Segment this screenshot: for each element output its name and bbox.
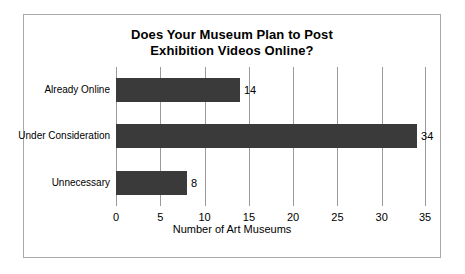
x-tick-label: 0 <box>113 210 119 224</box>
x-tick-label: 5 <box>157 210 163 224</box>
x-tick-label: 30 <box>376 210 388 224</box>
chart-title: Does Your Museum Plan to Post Exhibition… <box>24 27 440 59</box>
bar <box>116 171 187 195</box>
category-label: Unnecessary <box>52 171 110 195</box>
x-tick-label: 15 <box>243 210 255 224</box>
category-label: Under Consideration <box>18 124 110 148</box>
bar-value-label: 14 <box>240 78 256 102</box>
plot-area: Already Online 14 Under Consideration 34… <box>116 67 426 206</box>
x-tick-label: 20 <box>287 210 299 224</box>
x-tick-label: 35 <box>419 210 431 224</box>
x-tick-label: 25 <box>331 210 343 224</box>
category-label: Already Online <box>44 78 110 102</box>
x-tick-label: 10 <box>198 210 210 224</box>
x-axis-title: Number of Art Museums <box>24 223 440 235</box>
bar-value-label: 34 <box>417 124 433 148</box>
bar <box>116 124 417 148</box>
chart-title-line-1: Does Your Museum Plan to Post <box>24 27 440 43</box>
chart-frame: Does Your Museum Plan to Post Exhibition… <box>23 14 441 258</box>
chart-title-line-2: Exhibition Videos Online? <box>24 43 440 59</box>
bar-value-label: 8 <box>187 171 197 195</box>
bar <box>116 78 240 102</box>
